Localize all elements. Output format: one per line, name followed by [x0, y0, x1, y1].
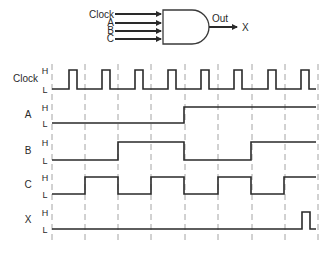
level-low-label: L	[42, 119, 47, 129]
signal-a: AHL	[25, 103, 316, 129]
waveform	[52, 212, 316, 229]
and-gate	[163, 10, 209, 44]
signal-label: B	[25, 145, 32, 156]
input-label-c: C	[107, 33, 114, 44]
signal-label: C	[24, 179, 31, 190]
signal-label: Clock	[13, 73, 39, 84]
output-target-label: X	[242, 22, 249, 33]
level-low-label: L	[42, 156, 47, 166]
timing-signals: ClockHLAHLBHLCHLXHL	[13, 66, 316, 235]
level-high-label: H	[42, 138, 49, 148]
waveform	[52, 177, 316, 194]
signal-clock: ClockHL	[13, 66, 316, 95]
level-high-label: H	[42, 208, 49, 218]
timing-grid	[52, 64, 318, 244]
waveform	[52, 107, 316, 123]
waveform	[52, 142, 316, 160]
gate-inputs	[115, 14, 161, 39]
signal-c: CHL	[24, 173, 316, 200]
level-high-label: H	[42, 66, 49, 76]
waveform	[52, 70, 316, 89]
signal-x: XHL	[25, 208, 316, 235]
signal-b: BHL	[25, 138, 316, 166]
level-high-label: H	[42, 103, 49, 113]
level-low-label: L	[42, 85, 47, 95]
signal-label: A	[25, 109, 32, 120]
level-low-label: L	[42, 225, 47, 235]
logic-diagram: Clock A B C Out X ClockHLAHLBHLCHLXHL	[0, 0, 331, 253]
output-label: Out	[212, 13, 228, 24]
level-high-label: H	[42, 173, 49, 183]
signal-label: X	[25, 214, 32, 225]
level-low-label: L	[42, 190, 47, 200]
